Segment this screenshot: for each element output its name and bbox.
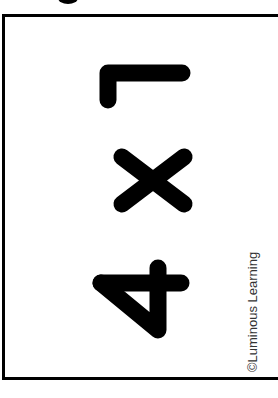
digit-four-glyph	[101, 268, 181, 330]
digit-one-glyph	[108, 73, 182, 100]
multiply-sign-glyph	[122, 157, 184, 204]
copyright-credit: ©Luminous Learning	[245, 252, 260, 372]
rotated-multiplication-expression	[0, 0, 278, 398]
